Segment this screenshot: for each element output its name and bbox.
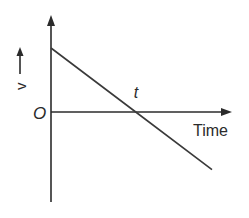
velocity-time-chart: O Time t v <box>0 0 249 218</box>
y-axis-label-group: v <box>12 47 29 90</box>
velocity-line <box>51 48 212 170</box>
x-axis-label: Time <box>193 122 228 139</box>
t-annotation-label: t <box>134 84 139 101</box>
y-axis-arrowhead <box>47 15 55 26</box>
origin-label: O <box>33 104 46 123</box>
y-label-arrow-icon <box>17 47 24 56</box>
y-axis-label: v <box>12 82 29 90</box>
x-axis-arrowhead <box>221 108 232 116</box>
